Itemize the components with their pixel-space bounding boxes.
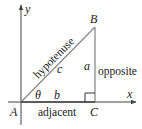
adjacent-name-label: adjacent <box>38 106 77 119</box>
right-angle-marker <box>85 93 95 102</box>
side-a-label: a <box>84 59 90 73</box>
angle-theta-label: θ <box>35 88 41 102</box>
vertex-c-label: C <box>90 105 99 119</box>
opposite-name-label: opposite <box>98 65 137 78</box>
x-axis-label: x <box>126 87 133 101</box>
vertex-a-label: A <box>9 105 18 119</box>
hypotenuse-name-label: hypotenuse <box>31 35 77 81</box>
side-b-label: b <box>54 88 60 102</box>
right-triangle-diagram: y x A B C c a b θ hypotenuse opposite ad… <box>0 0 142 129</box>
y-axis-label: y <box>24 2 31 16</box>
side-c-label: c <box>57 62 63 76</box>
vertex-b-label: B <box>90 12 98 26</box>
